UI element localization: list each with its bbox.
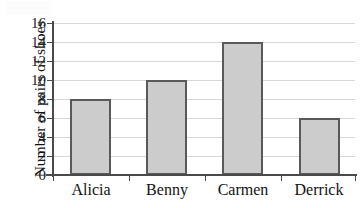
y-axis-tick-labels: 16 14 12 10 8 6 4 2 0: [0, 0, 46, 208]
y-tick-label-14: 14: [31, 35, 46, 50]
x-axis-line: [46, 174, 357, 176]
y-tick-mark-6: [47, 118, 53, 119]
bar-benny: [146, 80, 187, 175]
x-tick-mark-3: [281, 176, 282, 181]
y-tick-mark-12: [47, 61, 53, 62]
y-tick-label-8: 8: [39, 92, 47, 107]
y-tick-label-2: 2: [39, 149, 47, 164]
x-tick-mark-1: [129, 176, 130, 181]
x-label-derrick: Derrick: [281, 182, 357, 198]
y-tick-mark-4: [47, 137, 53, 138]
y-tick-mark-14: [47, 42, 53, 43]
y-tick-label-12: 12: [31, 54, 46, 69]
bar-alicia: [70, 99, 111, 175]
gridline-16: [53, 23, 355, 24]
bar-chart-figure: Number of pairs of shoes 16 14 12 10 8 6…: [0, 0, 364, 208]
y-tick-mark-8: [47, 99, 53, 100]
y-tick-mark-16: [47, 23, 53, 24]
y-tick-label-10: 10: [31, 73, 46, 88]
gridline-14: [53, 42, 355, 43]
x-label-alicia: Alicia: [53, 182, 129, 198]
y-tick-mark-10: [47, 80, 53, 81]
x-tick-mark-0: [53, 176, 54, 181]
gridline-10: [53, 80, 355, 81]
y-tick-label-0: 0: [39, 168, 47, 183]
y-tick-label-6: 6: [39, 111, 47, 126]
x-label-carmen: Carmen: [205, 182, 281, 198]
y-tick-label-16: 16: [31, 16, 46, 31]
y-tick-label-4: 4: [39, 130, 47, 145]
plot-area: [53, 23, 355, 175]
x-tick-mark-2: [205, 176, 206, 181]
x-label-benny: Benny: [129, 182, 205, 198]
bar-carmen: [222, 42, 263, 175]
x-tick-mark-4: [355, 176, 356, 181]
bar-derrick: [299, 118, 340, 175]
gridline-12: [53, 61, 355, 62]
y-tick-mark-2: [47, 156, 53, 157]
